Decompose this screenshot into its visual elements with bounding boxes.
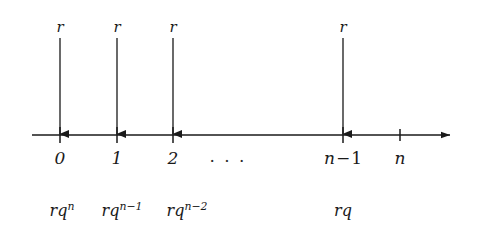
payment-label-1: r <box>113 20 120 35</box>
value-label-0: rqn <box>50 203 75 219</box>
index-n-base: n <box>324 148 335 168</box>
value-base-2: rq <box>167 201 185 220</box>
index-label-n: n <box>395 150 406 167</box>
index-label-n-minus-1: n−1 <box>324 150 362 167</box>
timeline-cashflow-figure: r r r r 0 1 2 · · · n−1 n rqn rqn−1 rqn−… <box>0 0 477 249</box>
value-exponent-0: n <box>67 200 74 213</box>
index-n-tail: 1 <box>351 148 362 168</box>
value-exponent-2: n−2 <box>184 200 207 213</box>
index-label-2: 2 <box>168 150 179 167</box>
value-base-1: rq <box>102 201 120 220</box>
value-label-1: rqn−1 <box>102 203 143 219</box>
payment-arrow-group <box>60 38 343 134</box>
minus-sign: − <box>335 148 351 168</box>
index-label-0: 0 <box>55 150 66 167</box>
value-label-n-minus-1: rq <box>334 203 352 219</box>
value-base-0: rq <box>50 201 68 220</box>
payment-label-0: r <box>56 20 63 35</box>
ellipsis-label: · · · <box>209 153 246 170</box>
index-label-1: 1 <box>112 150 123 167</box>
value-exponent-1: n−1 <box>119 200 142 213</box>
payment-label-2: r <box>169 20 176 35</box>
value-label-2: rqn−2 <box>167 203 208 219</box>
payment-label-n-minus-1: r <box>339 20 346 35</box>
